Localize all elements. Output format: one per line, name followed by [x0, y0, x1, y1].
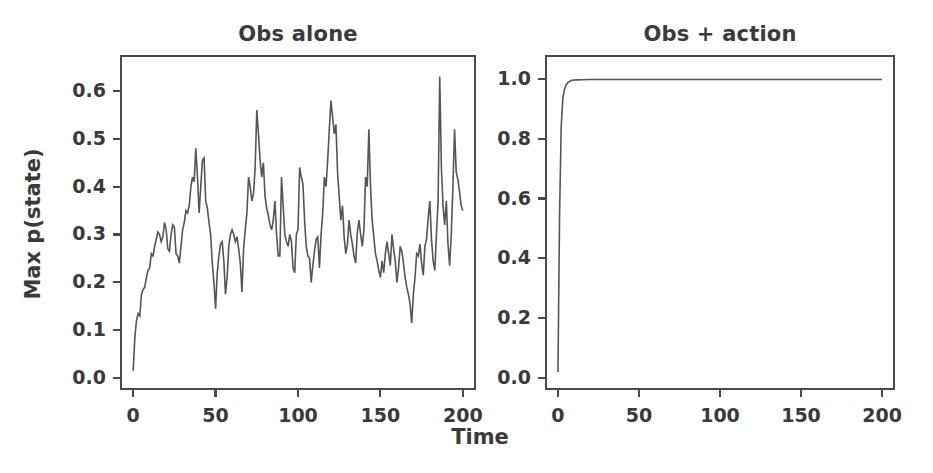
y-tick-label: 0.2 [473, 306, 531, 328]
x-tick-mark [132, 390, 134, 397]
y-tick-mark [538, 197, 545, 199]
y-tick-mark [113, 233, 120, 235]
y-tick-mark [538, 78, 545, 80]
x-tick-label: 150 [761, 404, 841, 426]
y-tick-label: 0.2 [48, 270, 106, 292]
y-tick-label: 0.0 [48, 366, 106, 388]
x-tick-mark [557, 390, 559, 397]
x-tick-label: 100 [680, 404, 760, 426]
y-tick-mark [113, 329, 120, 331]
y-tick-label: 0.5 [48, 127, 106, 149]
panel-obs-plus-action: Obs + action 0.00.20.40.60.81.0 05010015… [490, 0, 933, 473]
trace-obs-plus-action [490, 0, 933, 473]
x-tick-label: 100 [258, 404, 338, 426]
y-tick-mark [113, 90, 120, 92]
y-tick-label: 0.6 [48, 79, 106, 101]
y-tick-label: 0.4 [473, 246, 531, 268]
y-tick-mark [113, 377, 120, 379]
x-tick-mark [881, 390, 883, 397]
x-tick-label: 0 [518, 404, 598, 426]
y-tick-mark [113, 138, 120, 140]
x-axis-label: Time [420, 425, 540, 449]
y-tick-label: 1.0 [473, 67, 531, 89]
x-tick-mark [638, 390, 640, 397]
x-tick-mark [379, 390, 381, 397]
x-tick-label: 200 [842, 404, 922, 426]
x-tick-mark [800, 390, 802, 397]
y-tick-mark [113, 281, 120, 283]
x-tick-mark [297, 390, 299, 397]
data-line [558, 80, 882, 373]
data-line [133, 77, 463, 371]
x-tick-label: 50 [176, 404, 256, 426]
x-tick-label: 50 [599, 404, 679, 426]
y-axis-label: Max p(state) [21, 144, 45, 304]
y-tick-label: 0.1 [48, 318, 106, 340]
y-tick-mark [538, 317, 545, 319]
x-tick-mark [719, 390, 721, 397]
x-tick-mark [462, 390, 464, 397]
y-tick-label: 0.8 [473, 127, 531, 149]
y-tick-mark [538, 257, 545, 259]
x-tick-mark [214, 390, 216, 397]
panel-obs-alone: Obs alone 0.00.10.20.30.40.50.6 05010015… [0, 0, 490, 473]
y-tick-label: 0.3 [48, 222, 106, 244]
y-tick-mark [113, 186, 120, 188]
x-tick-label: 150 [340, 404, 420, 426]
y-tick-label: 0.0 [473, 366, 531, 388]
x-tick-label: 0 [93, 404, 173, 426]
y-tick-mark [538, 138, 545, 140]
y-tick-mark [538, 377, 545, 379]
y-tick-label: 0.6 [473, 187, 531, 209]
figure-canvas: Obs alone 0.00.10.20.30.40.50.6 05010015… [0, 0, 933, 473]
y-tick-label: 0.4 [48, 175, 106, 197]
